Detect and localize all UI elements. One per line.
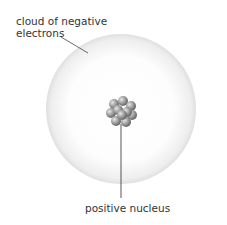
cloud-label: cloud of negative electrons xyxy=(16,15,107,39)
nucleus-label: positive nucleus xyxy=(85,202,170,214)
cloud-leader-line xyxy=(61,37,88,53)
nucleus-icon xyxy=(106,96,137,127)
cloud-label-line1: cloud of negative xyxy=(16,15,107,27)
cloud-label-line2: electrons xyxy=(16,27,107,39)
